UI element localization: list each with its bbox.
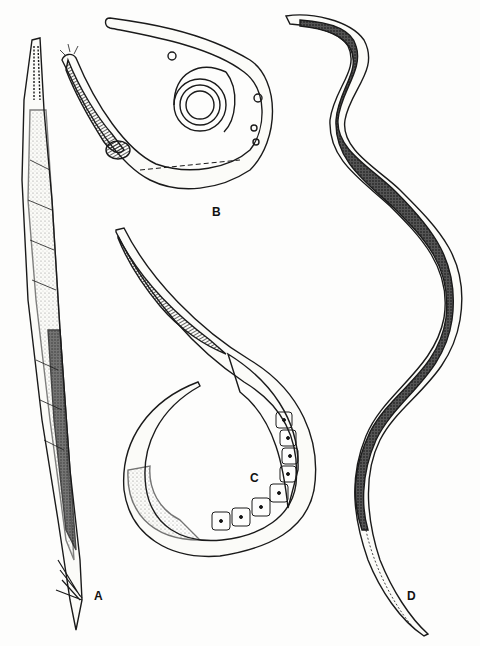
- specimen-d: [286, 15, 462, 636]
- panel-label-a: A: [94, 590, 103, 602]
- panel-label-c: C: [250, 472, 259, 484]
- line-drawing: [0, 0, 480, 646]
- panel-label-b: B: [212, 206, 221, 218]
- nematode-illustration: A B C D: [0, 0, 480, 646]
- specimen-c: [116, 228, 316, 556]
- panel-label-d: D: [407, 590, 416, 602]
- specimen-b: [60, 18, 273, 189]
- specimen-a: [22, 38, 82, 630]
